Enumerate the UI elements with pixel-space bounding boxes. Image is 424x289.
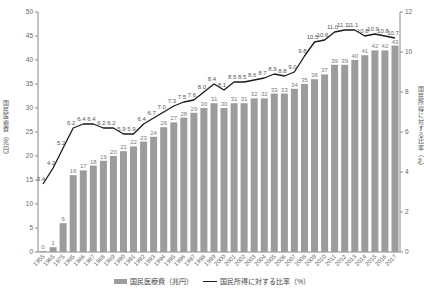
line-value-label: 3.4 xyxy=(37,176,46,182)
line-value-label: 10.6 xyxy=(317,32,329,38)
bar-value-label: 31 xyxy=(231,96,238,102)
bar xyxy=(221,108,228,252)
bar xyxy=(40,251,47,252)
right-axis-title: 国民所得に対する比率（%） xyxy=(417,86,423,170)
bar-value-label: 32 xyxy=(251,91,258,97)
left-tick-label: 35 xyxy=(26,80,34,87)
line-value-label: 8.7 xyxy=(258,70,267,76)
bar-value-label: 42 xyxy=(372,43,379,49)
line-value-label: 8.6 xyxy=(248,72,257,78)
bar-value-label: 1 xyxy=(51,240,55,246)
bar-value-label: 22 xyxy=(130,139,137,145)
bar xyxy=(190,113,197,252)
line-value-label: 8.1 xyxy=(218,82,227,88)
bar xyxy=(301,84,308,252)
plot-area: 0510152025303540455002468101201616171819… xyxy=(0,0,424,289)
bar-value-label: 35 xyxy=(301,77,308,83)
bar-value-label: 39 xyxy=(341,58,348,64)
bar xyxy=(361,55,368,252)
line-value-label: 8.9 xyxy=(268,66,277,72)
line-value-label: 8.0 xyxy=(198,84,207,90)
line-value-label: 10.7 xyxy=(387,30,399,36)
bar xyxy=(70,175,77,252)
bar-swatch-icon xyxy=(114,279,127,284)
left-tick-label: 40 xyxy=(26,56,34,63)
line-value-label: 8.8 xyxy=(278,68,287,74)
line-value-label: 7.0 xyxy=(158,104,167,110)
bar xyxy=(231,103,238,252)
bar-value-label: 31 xyxy=(241,96,248,102)
bar-value-label: 24 xyxy=(150,130,157,136)
line-value-label: 6.2 xyxy=(67,120,76,126)
bar xyxy=(60,223,67,252)
bar xyxy=(180,118,187,252)
right-tick-label: 2 xyxy=(405,208,409,215)
line-value-label: 6.4 xyxy=(137,116,146,122)
bar xyxy=(321,74,328,252)
right-tick-label: 0 xyxy=(405,248,409,255)
bar-value-label: 37 xyxy=(321,67,328,73)
bar-value-label: 41 xyxy=(361,48,368,54)
line-value-label: 5.2 xyxy=(57,140,66,146)
line-value-label: 8.5 xyxy=(228,74,237,80)
medical-expense-chart: 国民医療費（兆円） 051015202530354045500246810120… xyxy=(0,0,424,289)
bar-value-label: 33 xyxy=(281,87,288,93)
x-tick-label: 2017 xyxy=(384,253,398,267)
line-swatch-icon xyxy=(203,281,217,282)
bar xyxy=(271,94,278,252)
line-value-label: 6.4 xyxy=(87,116,96,122)
bar-value-label: 31 xyxy=(211,96,218,102)
bar xyxy=(211,103,218,252)
bar-value-label: 36 xyxy=(311,72,318,78)
right-tick-label: 4 xyxy=(405,168,409,175)
left-tick-label: 30 xyxy=(26,104,34,111)
bar-value-label: 16 xyxy=(70,168,77,174)
bar-value-label: 18 xyxy=(90,159,97,165)
right-tick-label: 10 xyxy=(405,48,413,55)
bar-value-label: 26 xyxy=(160,120,167,126)
bar xyxy=(381,50,388,252)
left-tick-label: 5 xyxy=(29,224,33,231)
bar xyxy=(311,79,318,252)
bar-value-label: 19 xyxy=(100,154,107,160)
bar-value-label: 0 xyxy=(41,244,45,250)
bar xyxy=(170,122,177,252)
bar xyxy=(291,89,298,252)
legend: 国民医療費（兆円） 国民所得に対する比率（%） xyxy=(0,276,424,286)
bar xyxy=(251,98,258,252)
bar xyxy=(140,142,147,252)
legend-item-line: 国民所得に対する比率（%） xyxy=(203,276,310,286)
bar xyxy=(281,94,288,252)
line-value-label: 6.4 xyxy=(77,116,86,122)
bar-value-label: 39 xyxy=(331,58,338,64)
bar-value-label: 28 xyxy=(180,111,187,117)
bar-value-label: 34 xyxy=(291,82,298,88)
bar xyxy=(150,137,157,252)
left-tick-label: 20 xyxy=(26,152,34,159)
bar xyxy=(160,127,167,252)
bar xyxy=(110,156,117,252)
bar xyxy=(392,46,399,252)
bar xyxy=(351,60,358,252)
bar-value-label: 30 xyxy=(201,101,208,107)
bar xyxy=(200,108,207,252)
bar xyxy=(100,161,107,252)
line-value-label: 6.2 xyxy=(107,120,116,126)
bar-value-label: 6 xyxy=(61,216,65,222)
bar-value-label: 40 xyxy=(351,53,358,59)
bar xyxy=(261,98,268,252)
bar xyxy=(50,247,57,252)
left-tick-label: 15 xyxy=(26,176,34,183)
bar-value-label: 30 xyxy=(221,101,228,107)
bar xyxy=(80,170,87,252)
bar-value-label: 29 xyxy=(191,106,198,112)
bar xyxy=(241,103,248,252)
bar-value-label: 33 xyxy=(271,87,278,93)
left-tick-label: 0 xyxy=(29,248,33,255)
bar xyxy=(120,151,127,252)
bar-value-label: 27 xyxy=(170,115,177,121)
left-tick-label: 25 xyxy=(26,128,34,135)
bar xyxy=(341,65,348,252)
bar-value-label: 23 xyxy=(140,135,147,141)
line-value-label: 5.9 xyxy=(127,126,136,132)
